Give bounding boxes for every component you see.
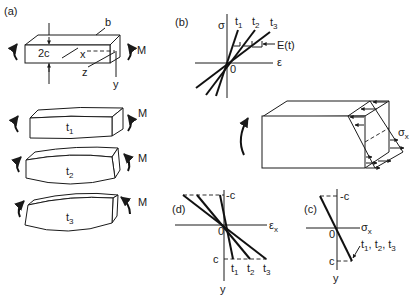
panel-c-stress-plot: (c) σx 0 y -c c t1, t2, t3 — [304, 189, 396, 284]
moment-label: M — [138, 107, 147, 119]
profile-bottom-edge — [375, 152, 403, 168]
bent-beam-t1: t1 M — [15, 107, 147, 139]
bottom-bound-label: c — [329, 255, 335, 267]
epsilon-axis-label: ε — [277, 56, 282, 68]
curve-t3 — [196, 32, 270, 88]
top-bound-label: -c — [340, 190, 350, 202]
moment-label: M — [138, 152, 147, 164]
moment-arrow-right-icon — [128, 115, 131, 131]
neutral-axis-dashed — [365, 128, 389, 142]
origin-label: 0 — [230, 63, 236, 75]
strain-t3-label: t3 — [263, 262, 271, 277]
width-label: b — [105, 16, 111, 28]
strain-t1-label: t1 — [231, 262, 239, 277]
stress-line-leader — [353, 246, 360, 258]
bottom-bound-label: c — [213, 253, 219, 265]
modulus-label: E(t) — [277, 39, 295, 51]
moment-arrow-icon — [241, 118, 248, 155]
curve-t3-label: t3 — [270, 16, 278, 31]
top-bound-label: -c — [226, 189, 236, 201]
moment-arrow-left-icon — [15, 116, 18, 132]
origin-label: 0 — [329, 228, 335, 240]
height-label: 2c — [38, 47, 50, 59]
curve-t1-label: t1 — [235, 15, 243, 30]
panel-b-label: (b) — [175, 16, 188, 28]
block-front-face — [262, 116, 365, 168]
panel-a-label: (a) — [4, 5, 17, 17]
stress-line-label: t1, t2, t3 — [361, 238, 396, 253]
curve-t2-label: t2 — [252, 15, 260, 30]
moment-arrow-left-icon — [14, 44, 17, 60]
panel-d-label: (d) — [172, 203, 185, 215]
strain-axis-label: εx — [269, 219, 278, 234]
sigma-axis-label: σ — [218, 19, 225, 31]
bent-beam-t3: t3 M — [19, 193, 148, 231]
y-axis-label: y — [113, 78, 119, 90]
y-axis-label: y — [220, 283, 226, 295]
x-axis-label: x — [80, 48, 86, 60]
y-axis-label: y — [333, 272, 339, 284]
panel-d-strain-plot: (d) εx 0 y -c c t1 t2 t3 — [172, 189, 278, 295]
moment-arrow-left-icon — [19, 201, 24, 217]
stress-axis-label: σx — [361, 221, 372, 236]
bent-beam-t2: t2 M — [17, 147, 147, 184]
stress-distribution-block: σx — [241, 101, 409, 168]
slope-marker-t1 — [234, 42, 240, 46]
moment-arrow-right-icon — [121, 197, 130, 214]
sigma-x-label: σx — [398, 126, 409, 141]
moment-label: M — [138, 196, 147, 208]
moment-label: M — [137, 44, 146, 56]
panel-c-label: (c) — [304, 203, 317, 215]
moment-arrow-right-icon — [128, 44, 131, 60]
width-leader — [96, 28, 105, 35]
block-bottom-back — [365, 152, 389, 168]
moment-arrow-right-icon — [124, 154, 129, 171]
panel-b-stress-strain-plot: (b) σ ε 0 t1 t2 t3 E(t) — [175, 14, 295, 98]
strain-t2-label: t2 — [247, 262, 255, 277]
z-axis-label: z — [82, 66, 88, 78]
moment-arrow-left-icon — [17, 157, 21, 172]
panel-a: (a) 2c b x y z M t1 — [4, 5, 147, 231]
viscoelastic-beam-bending-diagram: (a) 2c b x y z M t1 — [0, 0, 418, 303]
